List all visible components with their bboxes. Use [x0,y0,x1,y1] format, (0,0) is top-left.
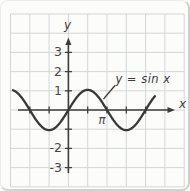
sine-graph: 321-2-3π y x y = sin x [1,1,190,191]
x-axis-label: x [178,97,187,111]
annotation-leader-line [104,86,116,100]
axes [18,38,175,174]
y-tick-label: 1 [54,83,62,98]
pi-tick-label: π [99,113,107,127]
y-tick-label: -2 [49,140,61,155]
figure-card: 321-2-3π y x y = sin x [0,0,190,191]
y-tick-label: 3 [54,44,62,59]
y-axis-arrowhead-icon [65,38,71,46]
y-tick-label: -3 [49,160,61,175]
x-axis-arrowhead-icon [168,107,176,113]
grid-lines [11,14,185,187]
curve-equation-label: y = sin x [114,72,170,86]
y-axis-label: y [63,18,72,32]
y-tick-label: 2 [54,64,62,79]
